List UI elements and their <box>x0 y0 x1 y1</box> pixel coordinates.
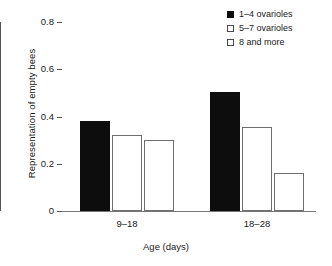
y-tick-label: 0.2 <box>14 158 54 169</box>
open-square-icon <box>227 39 234 46</box>
bar-2-3 <box>274 173 304 211</box>
x-axis-line <box>62 211 316 212</box>
bar-chart-figure: Representation of empty bees 00.20.40.60… <box>0 0 332 266</box>
filled-square-icon <box>227 11 234 18</box>
bar-1-2 <box>112 135 142 211</box>
open-square-icon <box>227 25 234 32</box>
y-tick-mark <box>57 211 62 212</box>
x-category-label: 18–28 <box>244 218 270 229</box>
bar-1-1 <box>80 121 110 211</box>
y-axis-line <box>0 22 1 211</box>
y-tick-label: 0.8 <box>14 16 54 27</box>
legend-label: 1–4 ovarioles <box>239 9 293 19</box>
bar-2-2 <box>242 127 272 211</box>
y-tick-label: 0.6 <box>14 63 54 74</box>
x-category-label: 9–18 <box>116 218 137 229</box>
legend-label: 5–7 ovarioles <box>239 23 293 33</box>
y-tick-label: 0.4 <box>14 111 54 122</box>
legend-item-1: 1–4 ovarioles <box>227 7 331 21</box>
y-tick-mark <box>57 117 62 118</box>
chart-legend: 1–4 ovarioles5–7 ovarioles8 and more <box>227 7 331 49</box>
bar-1-3 <box>144 140 174 211</box>
bar-2-1 <box>210 92 240 211</box>
x-axis-title: Age (days) <box>0 241 332 252</box>
y-tick-mark <box>57 22 62 23</box>
legend-item-3: 8 and more <box>227 35 331 49</box>
y-tick-mark <box>57 69 62 70</box>
legend-label: 8 and more <box>239 37 285 47</box>
y-tick-label: 0 <box>14 205 54 216</box>
y-tick-mark <box>57 164 62 165</box>
legend-item-2: 5–7 ovarioles <box>227 21 331 35</box>
